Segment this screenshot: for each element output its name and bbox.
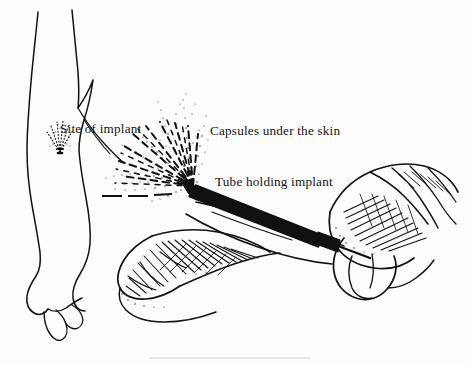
right-hand-thumb-crease [370, 254, 373, 288]
right-hand-gripping [329, 164, 458, 300]
left-hand-steadying [118, 230, 280, 322]
right-hand-hatching [344, 196, 426, 251]
implant-insertion-illustration: Site of implant Capsules under the skin … [0, 0, 470, 365]
left-hand-hatching [126, 240, 258, 296]
reference-arm-inner-contour [72, 10, 93, 311]
right-hand-finger-splay-b [410, 166, 456, 224]
left-hand-stipple [121, 269, 216, 307]
label-tube-holding-implant: Tube holding implant [215, 175, 333, 188]
right-hand-thumb-nail [349, 256, 372, 299]
left-hand-thumb-outline [118, 236, 180, 299]
reference-arm-finger-one [44, 310, 67, 340]
reference-arm-outer-contour [27, 12, 48, 314]
reference-arm-finger-two [66, 305, 83, 329]
right-hand-finger-splay-a [392, 168, 438, 228]
label-capsules-under-the-skin: Capsules under the skin [210, 124, 340, 137]
reference-arm-figure [27, 10, 124, 340]
capsule-lower-row [102, 194, 172, 196]
label-site-of-implant: Site of implant [60, 122, 141, 135]
